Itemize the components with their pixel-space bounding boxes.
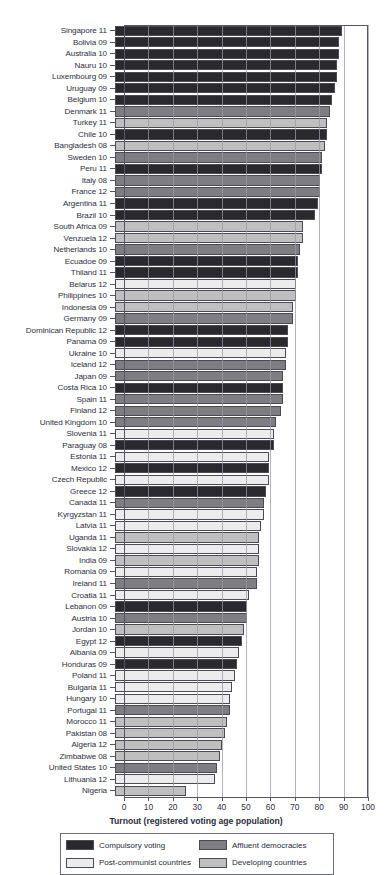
y-axis-tick-label: Greece 12: [0, 487, 110, 496]
chart-row: Honduras 09: [0, 658, 392, 670]
chart-row: Costa Rica 10: [0, 382, 392, 394]
y-axis-tick-label: Albania 09: [0, 648, 110, 657]
bar: [115, 452, 269, 462]
bar-cell: [115, 209, 392, 221]
x-axis-tick: [148, 797, 149, 801]
bar: [115, 567, 257, 577]
bar-cell: [115, 175, 392, 187]
bar: [115, 521, 261, 531]
bar: [115, 337, 288, 347]
chart-row: Belarus 12: [0, 278, 392, 290]
x-axis-tick-label: 60: [266, 802, 275, 812]
chart-row: Ireland 11: [0, 578, 392, 590]
y-axis-tick-label: Mexico 12: [0, 464, 110, 473]
bar: [115, 141, 325, 151]
chart-row: Germany 09: [0, 313, 392, 325]
bar: [115, 175, 320, 185]
bar-cell: [115, 336, 392, 348]
chart-row: Hungary 10: [0, 693, 392, 705]
bar-cell: [115, 635, 392, 647]
chart-row: Slovenia 11: [0, 428, 392, 440]
chart-row: Spain 11: [0, 394, 392, 406]
y-axis-tick-label: Bolivia 09: [0, 38, 110, 47]
chart-row: India 09: [0, 555, 392, 567]
bar: [115, 187, 320, 197]
y-axis-tick-label: Nauru 10: [0, 61, 110, 70]
chart-row: Iceland 12: [0, 359, 392, 371]
y-axis-tick-label: Spain 11: [0, 395, 110, 404]
bar-cell: [115, 727, 392, 739]
legend-item-compulsory: Compulsory voting: [66, 840, 195, 850]
chart-row: Denmark 11: [0, 106, 392, 118]
chart-row: Indonesia 09: [0, 301, 392, 313]
bar: [115, 325, 288, 335]
chart-row: Czech Republic: [0, 474, 392, 486]
bar: [115, 601, 247, 611]
y-axis-tick-label: United Kingdom 10: [0, 418, 110, 427]
bar: [115, 463, 269, 473]
bar: [115, 164, 322, 174]
y-axis-tick-label: South Africa 09: [0, 222, 110, 231]
chart-row: Panama 09: [0, 336, 392, 348]
x-axis-tick: [197, 797, 198, 801]
y-axis-tick-label: Estonia 11: [0, 452, 110, 461]
bar-cell: [115, 428, 392, 440]
y-axis-tick-label: Lithuania 12: [0, 775, 110, 784]
bar: [115, 256, 298, 266]
chart-row: Dominican Republic 12: [0, 324, 392, 336]
chart-row: Pakistan 08: [0, 727, 392, 739]
bar-cell: [115, 532, 392, 544]
chart-row: Sweden 10: [0, 152, 392, 164]
x-axis-title: Turnout (registered voting age populatio…: [0, 816, 392, 826]
chart-row: Bangladesh 08: [0, 140, 392, 152]
y-axis-tick-label: Latvia 11: [0, 521, 110, 530]
bar-cell: [115, 313, 392, 325]
bar-cell: [115, 774, 392, 786]
y-axis-tick-label: Poland 11: [0, 671, 110, 680]
y-axis-tick-label: Costa Rica 10: [0, 383, 110, 392]
bar-cell: [115, 25, 392, 37]
chart-row: Australia 10: [0, 48, 392, 60]
bar-cell: [115, 497, 392, 509]
bar: [115, 786, 186, 796]
bar-cell: [115, 290, 392, 302]
bar: [115, 544, 259, 554]
y-axis-tick-label: Thiland 11: [0, 268, 110, 277]
bar-cell: [115, 163, 392, 175]
bar-cell: [115, 324, 392, 336]
chart-row: Luxembourg 09: [0, 71, 392, 83]
bar: [115, 682, 232, 692]
bar: [115, 244, 300, 254]
y-axis-tick-label: Pakistan 08: [0, 729, 110, 738]
x-axis-tick: [270, 797, 271, 801]
y-axis-tick-label: Turkey 11: [0, 118, 110, 127]
chart-row: Uganda 11: [0, 532, 392, 544]
x-axis-tick: [344, 797, 345, 801]
chart-legend: Compulsory votingAffluent democraciesPos…: [60, 833, 334, 875]
chart-row: Uruguay 09: [0, 83, 392, 95]
bar-cell: [115, 589, 392, 601]
bar: [115, 290, 296, 300]
chart-row: Nauru 10: [0, 60, 392, 72]
y-axis-tick-label: Algeria 12: [0, 740, 110, 749]
chart-row: Peru 11: [0, 163, 392, 175]
bar: [115, 694, 230, 704]
bar: [115, 555, 259, 565]
bar: [115, 763, 217, 773]
bar: [115, 659, 237, 669]
y-axis-tick-label: Slovenia 11: [0, 429, 110, 438]
y-axis-tick-label: Netherlands 10: [0, 245, 110, 254]
y-axis-tick-label: Egypt 12: [0, 637, 110, 646]
bar: [115, 429, 274, 439]
bar: [115, 348, 286, 358]
chart-row: South Africa 09: [0, 221, 392, 233]
bar: [115, 613, 247, 623]
y-axis-tick-label: Paraguay 08: [0, 441, 110, 450]
y-axis-tick-label: Portugal 11: [0, 706, 110, 715]
y-axis-tick-label: Austria 10: [0, 614, 110, 623]
bar-cell: [115, 117, 392, 129]
bar: [115, 49, 339, 59]
chart-row: Greece 12: [0, 486, 392, 498]
bar-cell: [115, 60, 392, 72]
